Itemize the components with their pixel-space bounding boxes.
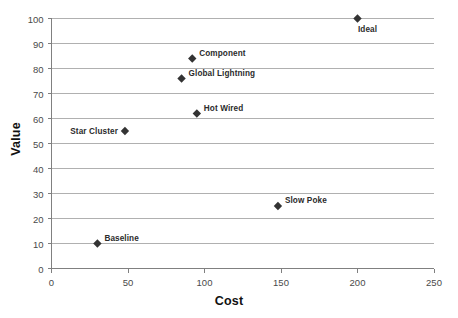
data-point-label: Slow Poke [285,196,327,205]
x-tick-label-150: 150 [261,277,301,288]
data-point-label: Hot Wired [204,103,244,112]
y-tick-label-30: 30 [4,188,44,199]
y-axis-ticks [48,19,52,269]
data-point-label: Global Lightning [189,68,256,77]
data-point-label: Ideal [358,25,377,34]
data-point-marker [177,74,185,82]
data-point-marker [93,239,101,247]
data-point-label: Baseline [104,233,138,242]
data-point-label: Star Cluster [70,127,118,136]
x-tick-label-0: 0 [32,277,72,288]
y-tick-label-100: 100 [4,13,44,24]
data-point-marker [353,14,361,22]
x-axis-title: Cost [0,294,458,308]
data-point-marker [193,109,201,117]
y-tick-label-20: 20 [4,213,44,224]
data-point-marker [121,127,129,135]
x-tick-label-100: 100 [185,277,225,288]
x-tick-label-200: 200 [338,277,378,288]
y-tick-label-10: 10 [4,238,44,249]
x-axis-ticks [52,269,435,273]
scatter-chart: 0102030405060708090100 050100150200250 B… [0,0,458,318]
y-tick-label-80: 80 [4,63,44,74]
y-tick-label-90: 90 [4,38,44,49]
data-point-label: Component [199,48,245,57]
data-point-marker [188,54,196,62]
y-tick-label-0: 0 [4,263,44,274]
x-tick-label-250: 250 [414,277,454,288]
data-point-marker [274,202,282,210]
y-tick-label-70: 70 [4,88,44,99]
x-tick-label-50: 50 [108,277,148,288]
y-axis-title: Value [9,99,23,179]
